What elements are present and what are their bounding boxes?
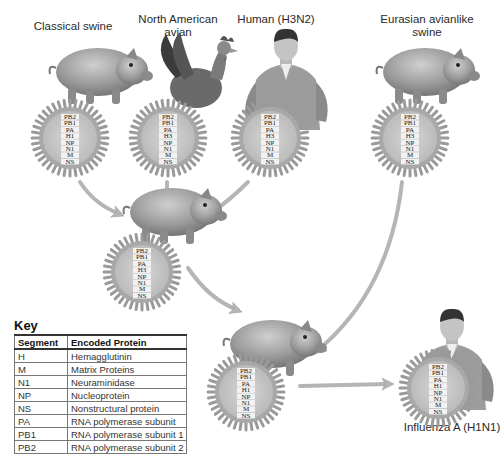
key-row: PARNA polymerase subunit	[15, 415, 187, 428]
key-row: PB1RNA polymerase subunit 1	[15, 428, 187, 441]
key-segment: PB2	[15, 441, 68, 454]
key-segment: NP	[15, 389, 68, 402]
key-row: N1Neuraminidase	[15, 376, 187, 389]
key-header-row: Segment Encoded Protein	[15, 335, 187, 349]
key-header-protein: Encoded Protein	[68, 335, 187, 349]
virus-north-american-avian: PB2PB1PAH3NPN1MNS	[130, 100, 206, 176]
north-american-avian-rooster	[161, 32, 238, 108]
virus-eurasian-avianlike-swine: PB2PB1PAH3NPN1MNS	[372, 100, 448, 176]
key-row: NSNonstructural protein	[15, 402, 187, 415]
arrow-intermediate-to-reassortant	[188, 268, 238, 310]
rna-segment-label: NS	[242, 412, 251, 420]
key-table: Segment Encoded Protein HHemagglutinin M…	[14, 334, 187, 454]
classical-swine-pig	[50, 48, 153, 104]
key-protein: Hemagglutinin	[68, 349, 187, 363]
virus-classical-swine: PB2PB1PAH1NPN1MNS	[32, 100, 108, 176]
key-title: Key	[14, 318, 38, 333]
key-header-segment: Segment	[15, 335, 68, 349]
key-row: PB2RNA polymerase subunit 2	[15, 441, 187, 454]
rna-segment-label: NS	[406, 158, 415, 166]
virus-reassortant: PB2PB1PAH1NPN1MNS	[208, 354, 284, 430]
eurasian-swine-pig	[377, 48, 480, 104]
key-segment: N1	[15, 376, 68, 389]
virus-influenza-a-h1n1: PB2PB1PAH1NPN1MNS	[400, 350, 476, 426]
rna-segment-label: NS	[138, 292, 147, 300]
key-row: MMatrix Proteins	[15, 363, 187, 376]
key-protein: RNA polymerase subunit	[68, 415, 187, 428]
key-row: HHemagglutinin	[15, 349, 187, 363]
key-protein: Neuraminidase	[68, 376, 187, 389]
key-protein: RNA polymerase subunit 1	[68, 428, 187, 441]
key-protein: RNA polymerase subunit 2	[68, 441, 187, 454]
key-segment: PB1	[15, 428, 68, 441]
arrow-reassortant-to-result	[300, 384, 388, 386]
arrow-eurasian-to-reassortant	[318, 182, 402, 350]
key-row: NPNucleoprotein	[15, 389, 187, 402]
rna-segment-label: NS	[164, 158, 173, 166]
key-segment: NS	[15, 402, 68, 415]
key-segment: M	[15, 363, 68, 376]
virus-human-h3n2: PB2PB1PAH3NPN1MNS	[232, 100, 308, 176]
key-protein: Nonstructural protein	[68, 402, 187, 415]
arrow-classical-to-intermediate	[80, 182, 120, 214]
virus-intermediate: PB2PB1PAH3NPN1MNS	[104, 234, 180, 310]
rna-segment-label: NS	[266, 158, 275, 166]
key-protein: Matrix Proteins	[68, 363, 187, 376]
rna-segment-label: NS	[434, 408, 443, 416]
key-segment: H	[15, 349, 68, 363]
intermediate-pig	[124, 188, 227, 244]
key-protein: Nucleoprotein	[68, 389, 187, 402]
rna-segment-label: NS	[66, 158, 75, 166]
key-segment: PA	[15, 415, 68, 428]
